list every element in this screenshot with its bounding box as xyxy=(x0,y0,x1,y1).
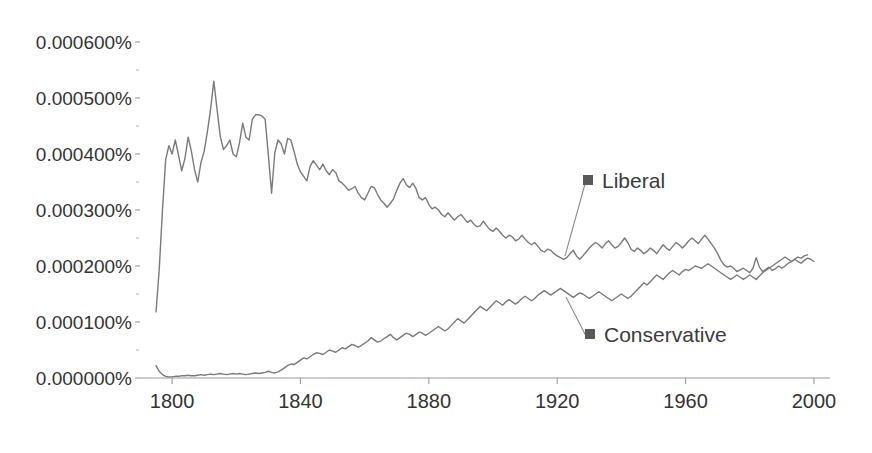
y-tick-label: 0.000300% xyxy=(36,200,132,221)
y-tick-label: 0.000000% xyxy=(36,368,132,389)
legend-marker-liberal xyxy=(583,175,593,185)
line-chart: 0.000000%0.000100%0.000200%0.000300%0.00… xyxy=(0,0,872,453)
series-line-conservative xyxy=(156,255,807,377)
series-line-liberal xyxy=(156,81,814,312)
annotation-leader-line xyxy=(565,184,585,256)
x-tick-label: 1960 xyxy=(663,390,708,412)
x-tick-label: 1920 xyxy=(535,390,580,412)
annotation-leader-line xyxy=(566,297,587,338)
x-tick-label: 2000 xyxy=(792,390,837,412)
series-annotations: LiberalConservative xyxy=(565,169,727,346)
x-tick-label: 1880 xyxy=(407,390,452,412)
y-axis-tick-marks xyxy=(135,42,140,378)
x-tick-label: 1840 xyxy=(278,390,323,412)
y-tick-label: 0.000500% xyxy=(36,88,132,109)
legend-marker-conservative xyxy=(585,329,595,339)
x-axis-tick-labels: 180018401880192019602000 xyxy=(150,390,836,412)
y-tick-label: 0.000600% xyxy=(36,32,132,53)
x-tick-label: 1800 xyxy=(150,390,195,412)
y-tick-label: 0.000200% xyxy=(36,256,132,277)
legend-label-liberal: Liberal xyxy=(602,169,665,192)
x-axis-tick-marks xyxy=(172,378,814,384)
ngram-chart-container: 0.000000%0.000100%0.000200%0.000300%0.00… xyxy=(0,0,872,453)
y-axis-tick-labels: 0.000000%0.000100%0.000200%0.000300%0.00… xyxy=(36,32,132,389)
legend-label-conservative: Conservative xyxy=(604,323,727,346)
y-tick-label: 0.000100% xyxy=(36,312,132,333)
y-tick-label: 0.000400% xyxy=(36,144,132,165)
